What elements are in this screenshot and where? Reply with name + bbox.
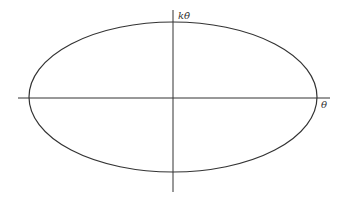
horizontal-axis-label: θ: [321, 99, 327, 110]
vertical-axis-label: kθ̇: [178, 10, 190, 21]
phase-diagram: kθ̇ θ: [0, 0, 344, 197]
